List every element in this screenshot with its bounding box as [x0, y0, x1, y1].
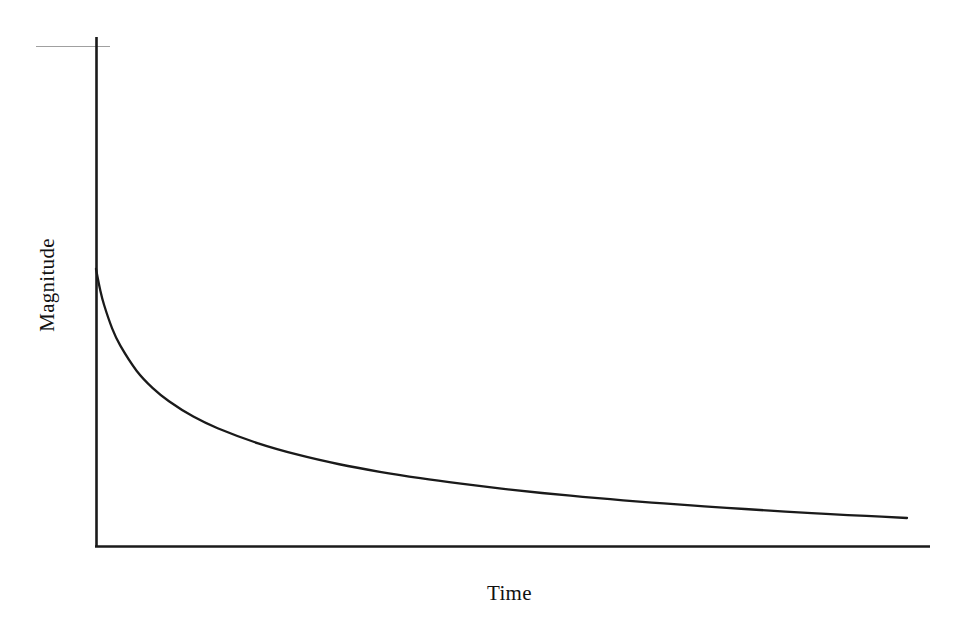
x-axis-label: Time	[487, 581, 532, 606]
plot-background	[0, 0, 969, 635]
y-axis-label-text: Magnitude	[35, 238, 60, 332]
chart-figure: Magnitude Time	[0, 0, 969, 635]
plot-canvas	[0, 0, 969, 635]
